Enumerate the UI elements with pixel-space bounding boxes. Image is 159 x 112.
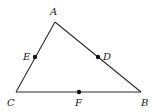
point-f	[77, 90, 81, 94]
triangle-diagram: ABCDEF	[0, 0, 159, 112]
label-e: E	[22, 51, 31, 62]
midpoints	[33, 55, 100, 94]
label-b: B	[140, 97, 148, 108]
point-d	[96, 55, 100, 59]
label-a: A	[49, 6, 57, 17]
label-c: C	[7, 97, 15, 108]
label-d: D	[102, 51, 111, 62]
point-e	[33, 55, 37, 59]
label-f: F	[74, 97, 83, 108]
